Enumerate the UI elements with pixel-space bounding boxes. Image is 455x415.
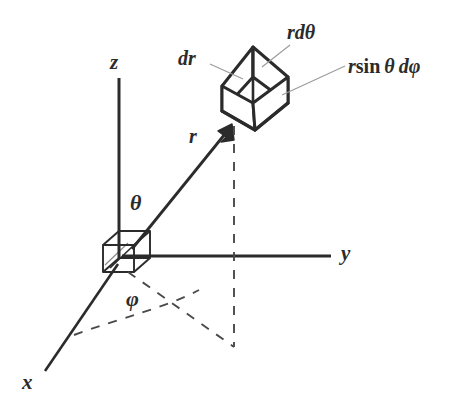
dr-label: dr [178,48,196,68]
x-axis-line [45,264,118,371]
origin-cube-edge-tl [103,231,119,245]
phi-angle-label: φ [126,288,139,310]
theta-angle-label: θ [130,192,141,214]
origin-cube-edge-br [134,258,150,272]
r-vector-label: r [189,126,197,146]
volume-element-cube [222,47,288,130]
rsin-theta: θ [384,55,394,77]
r-vector-line [132,129,229,249]
dashed-construction-group [74,126,234,347]
spherical-coordinates-diagram: z y x θ φ r dr rdθ rsin θ dφ [0,0,455,415]
rsin-sin: sin [356,55,380,77]
rsin-prefix: r [348,55,356,77]
r-sin-theta-dphi-label: rsin θ dφ [348,56,420,76]
rdtheta-leader-line [262,45,290,67]
x-axis-label: x [22,372,33,393]
rsin-leader-line [282,66,345,95]
axes-group [45,78,331,371]
projection-dashed-line [128,272,234,347]
z-axis-label: z [110,52,118,73]
r-vector-group [132,124,234,249]
r-dtheta-label: rdθ [287,22,315,42]
rsin-dphi: dφ [399,55,421,77]
y-axis-label: y [341,243,350,264]
